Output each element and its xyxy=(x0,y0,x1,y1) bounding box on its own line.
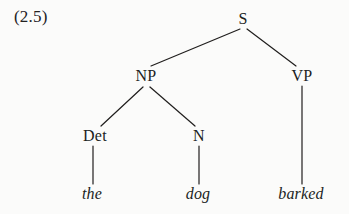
tree-edge-np-to-det xyxy=(101,87,143,126)
tree-node-np: NP xyxy=(133,68,158,84)
tree-terminal-barked: barked xyxy=(276,186,326,202)
tree-node-s: S xyxy=(236,11,249,27)
figure-tree-diagram: (2.5) SNPVPDetNthedogbarked xyxy=(0,0,349,214)
tree-terminal-the: the xyxy=(80,186,104,202)
tree-node-n: N xyxy=(191,128,207,144)
tree-terminal-dog: dog xyxy=(184,186,213,202)
tree-edges xyxy=(0,0,349,214)
tree-node-vp: VP xyxy=(289,68,314,84)
tree-edge-s-to-np xyxy=(151,29,240,66)
tree-edge-s-to-vp xyxy=(247,29,296,66)
tree-edge-np-to-n xyxy=(150,87,195,126)
tree-node-det: Det xyxy=(81,128,109,144)
